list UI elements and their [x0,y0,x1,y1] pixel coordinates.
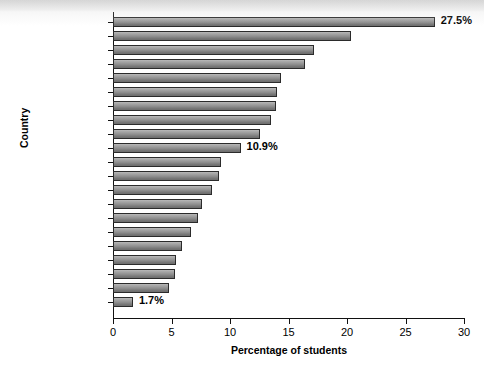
bar [113,227,191,237]
bar-row: Switzerland [113,241,464,251]
x-axis-tick-label: 10 [215,326,245,338]
bar [113,185,212,195]
bar-row: New Zealand [113,129,464,139]
bar [113,171,219,181]
bar [113,101,276,111]
bar [113,129,260,139]
plot-area: Greece27.5%South KoreaChinaMexicoUnited … [113,12,464,318]
bar [113,143,241,153]
bar-row: Lithuania [113,157,464,167]
bar-row: Greece27.5% [113,17,464,27]
bar-row: Canada10.9% [113,143,464,153]
bar [113,255,176,265]
bar-row: United States [113,87,464,97]
x-axis-tick [464,318,465,324]
x-axis-tick-label: 5 [157,326,187,338]
x-axis-tick [172,318,173,324]
bar-row: Germany [113,213,464,223]
x-axis-tick-label: 20 [332,326,362,338]
bar [113,45,314,55]
x-axis-tick-label: 25 [391,326,421,338]
bar-row: Australia [113,185,464,195]
bar-row: Russia [113,101,464,111]
bar-value-label: 1.7% [139,294,164,306]
bar [113,115,271,125]
bar [113,269,175,279]
bar-row: Belgium [113,199,464,209]
bar-value-label: 10.9% [247,140,278,152]
bar [113,199,202,209]
bar-row: China [113,45,464,55]
bar-chart: Greece27.5%South KoreaChinaMexicoUnited … [0,0,484,370]
bar-row: Netherlands [113,283,464,293]
bar-row: United Kingdom [113,73,464,83]
bar [113,213,198,223]
x-axis-tick [289,318,290,324]
bar-row: Hong Kong [113,115,464,125]
x-axis-tick-label: 0 [98,326,128,338]
bar [113,241,182,251]
x-axis-tick [406,318,407,324]
bar-row: Sweden1.7% [113,297,464,307]
x-axis-tick-label: 15 [274,326,304,338]
x-axis-tick [347,318,348,324]
bar [113,59,305,69]
bar-row: Mexico [113,59,464,69]
y-axis-label: Country [18,108,30,148]
bar [113,283,169,293]
bar-row: Brazil [113,227,464,237]
bar [113,157,221,167]
x-axis-tick-label: 30 [449,326,479,338]
bar [113,31,351,41]
bar [113,87,277,97]
x-axis-tick [113,318,114,324]
bar-value-label: 27.5% [441,14,472,26]
bar-row: Portugal [113,269,464,279]
bar [113,73,281,83]
bar-row: Singapore [113,255,464,265]
bar [113,17,435,27]
x-axis-tick [230,318,231,324]
x-axis-label: Percentage of students [113,344,465,356]
bar-row: Israel [113,171,464,181]
bar [113,297,133,307]
bar-row: South Korea [113,31,464,41]
